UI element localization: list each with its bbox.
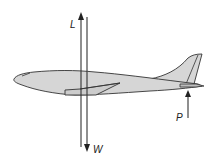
weight-label: W: [93, 144, 104, 155]
lift-label: L: [70, 19, 76, 30]
tail-force-arrowhead-icon: [185, 90, 191, 97]
lift-arrowhead-icon: [78, 12, 84, 20]
weight-arrowhead-icon: [84, 144, 90, 152]
tail-force-label: P: [176, 112, 183, 123]
airplane-force-diagram: L W P: [0, 0, 213, 162]
horizontal-stabilizer: [180, 84, 204, 87]
